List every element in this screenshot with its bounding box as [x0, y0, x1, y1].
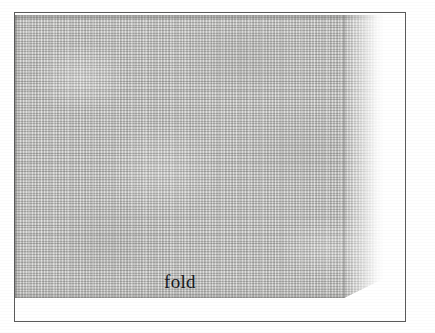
plate-frame-border: fold — [14, 12, 406, 322]
fabric-left-edge-shadow — [15, 15, 19, 298]
fold-crease-line — [343, 15, 345, 298]
fold-label: fold — [15, 271, 345, 293]
figure-plate: fold — [0, 0, 435, 333]
fabric-swatch — [15, 15, 383, 298]
fabric-mottling — [15, 15, 383, 298]
fabric-top-edge-shadow — [15, 15, 383, 20]
plate-stage: fold — [15, 13, 405, 321]
